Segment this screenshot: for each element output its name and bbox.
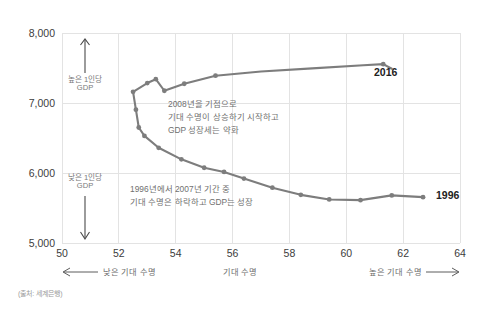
- annotation-2008-line1: 2008년을 기점으로: [168, 99, 237, 109]
- data-point: [131, 89, 136, 94]
- xtick-label: 52: [113, 247, 125, 259]
- ytick-label: 6,000: [29, 167, 55, 179]
- data-point: [389, 193, 394, 198]
- ytick-label: 7,000: [29, 97, 55, 109]
- chart-figure: 8,000 7,000 6,000 5,000 50 52 54 56 58 6…: [0, 0, 484, 310]
- ytick-label: 5,000: [29, 237, 55, 249]
- xtick-label: 64: [454, 247, 466, 259]
- x-axis-center-label: 기대 수명: [223, 267, 257, 277]
- xtick-label: 62: [397, 247, 409, 259]
- low-gdp-direction: 낮은 1인당 GDP: [68, 172, 102, 239]
- data-point: [270, 185, 275, 190]
- data-point: [142, 134, 147, 139]
- high-life-expectancy-label: 높은 기대 수명: [369, 267, 422, 277]
- data-point: [162, 88, 167, 93]
- data-point: [156, 145, 161, 150]
- x-axis-tick-labels: 50 52 54 56 58 60 62 64: [56, 247, 466, 259]
- data-point: [421, 195, 426, 200]
- grid-vertical: [62, 33, 460, 243]
- endpoint-label-2016: 2016: [374, 66, 398, 78]
- xtick-label: 60: [340, 247, 352, 259]
- data-point: [298, 192, 303, 197]
- data-point: [327, 197, 332, 202]
- data-point: [358, 198, 363, 203]
- data-point: [179, 157, 184, 162]
- high-life-expectancy-direction: 높은 기대 수명: [369, 267, 459, 277]
- high-gdp-direction: 높은 1인당 GDP: [68, 39, 102, 92]
- xtick-label: 56: [227, 247, 239, 259]
- data-point: [182, 81, 187, 86]
- annotation-2008: 2008년을 기점으로 기대 수명이 상승하기 시작하고 GDP 성장세는 약화: [168, 99, 279, 135]
- data-point: [222, 170, 227, 175]
- data-point: [242, 176, 247, 181]
- low-life-expectancy-direction: 낮은 기대 수명: [63, 267, 156, 277]
- annotation-2008-line3: GDP 성장세는 약화: [168, 125, 239, 135]
- gdp-life-expectancy-chart: 8,000 7,000 6,000 5,000 50 52 54 56 58 6…: [0, 0, 484, 310]
- annotation-1996-2007: 1996년에서 2007년 기간 중 기대 수명은 하락하고 GDP는 성장: [130, 184, 253, 207]
- xtick-label: 54: [170, 247, 182, 259]
- annotation-1996-2007-line2: 기대 수명은 하락하고 GDP는 성장: [130, 197, 253, 207]
- xtick-label: 50: [56, 247, 68, 259]
- data-point: [136, 125, 141, 130]
- data-point: [134, 107, 139, 112]
- grid-horizontal: [62, 33, 460, 243]
- ytick-label: 8,000: [29, 27, 55, 39]
- y-axis-tick-labels: 8,000 7,000 6,000 5,000: [29, 27, 55, 249]
- annotation-1996-2007-line1: 1996년에서 2007년 기간 중: [130, 184, 230, 194]
- annotation-2008-line2: 기대 수명이 상승하기 시작하고: [168, 112, 279, 122]
- data-point: [153, 77, 158, 82]
- source-note: (출처: 세계은행): [18, 289, 63, 298]
- data-point: [202, 165, 207, 170]
- low-gdp-label-line2: GDP: [77, 181, 93, 190]
- high-gdp-label-line2: GDP: [77, 83, 93, 92]
- endpoint-label-1996: 1996: [436, 189, 460, 201]
- low-life-expectancy-label: 낮은 기대 수명: [103, 267, 156, 277]
- xtick-label: 58: [284, 247, 296, 259]
- data-point: [213, 73, 218, 78]
- data-point: [145, 81, 150, 86]
